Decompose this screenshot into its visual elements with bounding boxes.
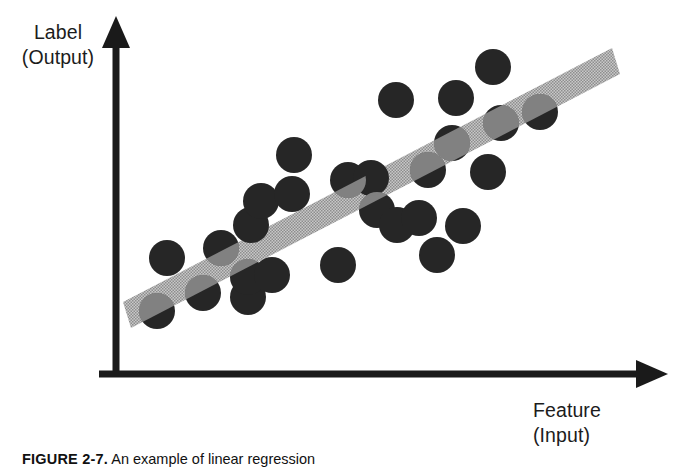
y-axis-label: Label(Output) xyxy=(18,20,98,70)
y-axis-arrowhead xyxy=(102,16,130,48)
figure-caption-id: FIGURE 2-7. xyxy=(22,451,108,467)
data-point xyxy=(320,247,356,283)
data-point xyxy=(254,257,290,293)
y-axis-label-line1: Label xyxy=(34,21,82,43)
x-axis-label-line1: Feature xyxy=(533,399,601,421)
x-axis-label-line2: (Input) xyxy=(533,424,590,446)
data-point xyxy=(378,82,414,118)
x-axis-label: Feature(Input) xyxy=(533,398,683,448)
data-point xyxy=(149,240,185,276)
figure-caption: FIGURE 2-7. An example of linear regress… xyxy=(22,450,662,468)
data-point xyxy=(274,176,310,212)
data-point xyxy=(475,49,511,85)
data-point xyxy=(445,208,481,244)
data-point xyxy=(276,137,312,173)
data-point xyxy=(419,237,455,273)
x-axis-arrowhead xyxy=(636,360,668,388)
data-point xyxy=(470,154,506,190)
data-point xyxy=(243,183,279,219)
y-axis-label-line2: (Output) xyxy=(22,46,94,68)
figure-caption-text: An example of linear regression xyxy=(108,451,315,467)
data-point xyxy=(438,80,474,116)
data-point xyxy=(401,200,437,236)
